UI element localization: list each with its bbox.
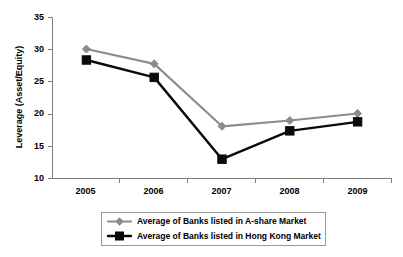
- data-point-marker: [286, 117, 294, 125]
- legend-square-icon: [116, 232, 124, 240]
- data-series-layer: [82, 45, 362, 163]
- y-axis-ticks: [48, 18, 53, 179]
- series-line-a-share: [86, 49, 357, 126]
- data-point-marker: [353, 118, 361, 126]
- legend-label-hong-kong: Average of Banks listed in Hong Kong Mar…: [137, 231, 321, 241]
- y-tick-label: 15: [34, 141, 44, 151]
- y-axis-label: Leverage (Asset/Equity): [14, 46, 24, 149]
- y-tick-label: 10: [34, 173, 44, 183]
- x-tick-label: 2008: [279, 186, 299, 196]
- legend-label-a-share: Average of Banks listed in A-share Marke…: [137, 216, 307, 226]
- y-tick-label: 20: [34, 108, 44, 118]
- data-point-marker: [218, 155, 226, 163]
- y-tick-label: 25: [34, 76, 44, 86]
- chart-legend: Average of Banks listed in A-share Marke…: [102, 213, 326, 246]
- x-axis-ticks: [120, 179, 392, 184]
- y-axis-tick-labels: 35 30 25 20 15 10: [34, 12, 44, 183]
- leverage-line-chart: Leverage (Asset/Equity) 35 30 25 20 15 1…: [0, 0, 403, 257]
- x-tick-label: 2005: [75, 186, 95, 196]
- series-line-hong-kong: [86, 60, 357, 159]
- x-axis-tick-labels: 2005 2006 2007 2008 2009: [75, 186, 367, 196]
- data-point-marker: [354, 109, 362, 117]
- x-tick-label: 2009: [347, 186, 367, 196]
- y-tick-label: 30: [34, 44, 44, 54]
- data-point-marker: [286, 127, 294, 135]
- x-tick-label: 2006: [143, 186, 163, 196]
- data-point-marker: [150, 73, 158, 81]
- chart-figure: Leverage (Asset/Equity) 35 30 25 20 15 1…: [0, 0, 403, 257]
- x-tick-label: 2007: [211, 186, 231, 196]
- data-point-marker: [82, 45, 90, 53]
- y-tick-label: 35: [34, 12, 44, 22]
- data-point-marker: [82, 56, 90, 64]
